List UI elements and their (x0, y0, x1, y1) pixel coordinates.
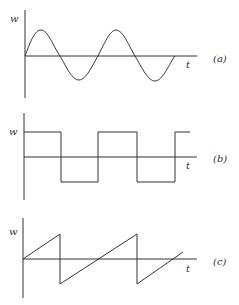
t-axis-label: t (186, 59, 191, 70)
panel-a-sine: w t (a) (10, 10, 227, 98)
t-axis-label: t (186, 263, 191, 274)
panel-caption: (a) (213, 53, 227, 64)
y-axis-label: w (9, 226, 18, 237)
y-axis-label: w (10, 13, 19, 24)
panel-caption: (b) (213, 153, 227, 164)
panel-c-sawtooth: w t (c) (9, 218, 227, 298)
waveform-diagram: w t (a) w t (b) w t (c) (0, 0, 239, 305)
panel-caption: (c) (213, 256, 227, 267)
y-axis-label: w (9, 126, 18, 137)
t-axis-label: t (186, 160, 191, 171)
panel-b-square: w t (b) (9, 113, 227, 200)
